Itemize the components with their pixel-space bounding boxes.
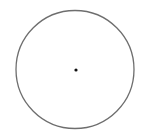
circle-diagram	[0, 0, 141, 137]
center-point	[74, 68, 77, 71]
